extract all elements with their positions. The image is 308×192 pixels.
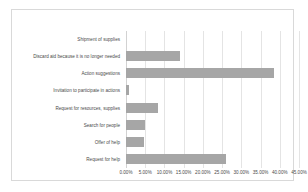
x-tick-label: 0.00%	[119, 170, 132, 175]
category-label: Offer of help	[95, 140, 123, 145]
category-label-row: Search for people	[12, 117, 123, 134]
category-label: Shipment of supplies	[77, 37, 123, 42]
x-tick-label: 25.00%	[214, 170, 230, 175]
category-label-row: Offer of help	[12, 134, 123, 151]
category-label-row: Invitation to participate in actions	[12, 82, 123, 99]
category-label: Request for resources, supplies	[55, 106, 123, 111]
bar	[126, 120, 145, 130]
category-label: Search for people	[84, 123, 123, 128]
category-label-row: Shipment of supplies	[12, 31, 123, 48]
x-axis-tick-labels: 0.00%5.00%10.00%15.00%20.00%25.00%30.00%…	[126, 170, 299, 180]
bar	[126, 51, 180, 61]
category-label: Request for help	[86, 157, 123, 162]
category-label: Invitation to participate in actions	[53, 88, 123, 93]
category-label-row: Discard aid because it is no longer need…	[12, 48, 123, 65]
bar-row	[126, 82, 299, 99]
plot-area	[126, 31, 299, 168]
gridline	[299, 31, 300, 168]
bar-row	[126, 134, 299, 151]
bar	[126, 68, 274, 78]
bar	[126, 103, 158, 113]
bar	[126, 154, 226, 164]
x-tick-label: 40.00%	[272, 170, 288, 175]
category-axis: Shipment of supplies Discard aid because…	[12, 31, 123, 168]
bar	[126, 137, 144, 147]
category-label: Action suggestions	[81, 71, 123, 76]
x-tick-label: 10.00%	[157, 170, 173, 175]
bar	[126, 85, 129, 95]
bar-row	[126, 117, 299, 134]
chart-frame: Shipment of supplies Discard aid because…	[11, 9, 294, 181]
bar-row	[126, 151, 299, 168]
category-label-row: Action suggestions	[12, 65, 123, 82]
bar-row	[126, 31, 299, 48]
category-label-row: Request for resources, supplies	[12, 100, 123, 117]
x-tick-label: 45.00%	[291, 170, 305, 175]
bar-row	[126, 48, 299, 65]
x-tick-label: 15.00%	[176, 170, 192, 175]
x-tick-label: 20.00%	[195, 170, 211, 175]
category-label-row: Request for help	[12, 151, 123, 168]
bar-row	[126, 100, 299, 117]
bar-row	[126, 65, 299, 82]
x-tick-label: 30.00%	[234, 170, 250, 175]
x-tick-label: 5.00%	[139, 170, 152, 175]
x-tick-label: 35.00%	[253, 170, 269, 175]
category-label: Discard aid because it is no longer need…	[33, 54, 123, 59]
